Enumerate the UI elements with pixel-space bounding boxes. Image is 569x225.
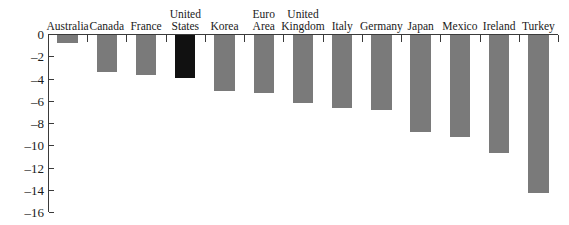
y-axis-tick-label: 0 bbox=[0, 28, 44, 41]
bar bbox=[214, 35, 234, 91]
category-axis-labels: AustraliaCanadaFranceUnited StatesKoreaE… bbox=[48, 0, 558, 34]
x-axis-tick bbox=[401, 35, 402, 42]
bar bbox=[332, 35, 352, 108]
x-axis-tick bbox=[480, 35, 481, 42]
bar bbox=[254, 35, 274, 93]
bar bbox=[489, 35, 509, 153]
y-axis-tick bbox=[49, 145, 54, 146]
bar bbox=[175, 35, 195, 78]
bar bbox=[371, 35, 391, 110]
y-axis-tick-label: –16 bbox=[0, 206, 44, 219]
y-axis-tick-labels: 0–2–4–6–8–10–12–14–16 bbox=[0, 34, 44, 212]
category-label: Turkey bbox=[515, 21, 562, 33]
y-axis-tick bbox=[49, 79, 54, 80]
y-axis-tick bbox=[49, 101, 54, 102]
y-axis-tick-label: –10 bbox=[0, 139, 44, 152]
bar bbox=[410, 35, 430, 132]
y-axis-tick bbox=[49, 56, 54, 57]
plot-area bbox=[48, 34, 558, 212]
y-axis-tick-label: –2 bbox=[0, 50, 44, 63]
bar bbox=[136, 35, 156, 75]
bar bbox=[450, 35, 470, 137]
y-axis-tick bbox=[49, 123, 54, 124]
x-axis-tick bbox=[166, 35, 167, 42]
y-axis-tick-label: –12 bbox=[0, 161, 44, 174]
x-axis-tick bbox=[244, 35, 245, 42]
x-axis-tick bbox=[558, 35, 559, 42]
x-axis-tick bbox=[126, 35, 127, 42]
bar bbox=[97, 35, 117, 72]
y-axis-tick bbox=[49, 212, 54, 213]
bar bbox=[293, 35, 313, 103]
bar-chart: AustraliaCanadaFranceUnited StatesKoreaE… bbox=[0, 0, 569, 225]
y-axis-tick bbox=[49, 190, 54, 191]
x-axis-tick bbox=[205, 35, 206, 42]
x-axis-tick bbox=[283, 35, 284, 42]
y-axis-tick-label: –4 bbox=[0, 72, 44, 85]
bar bbox=[57, 35, 77, 43]
x-axis-tick bbox=[362, 35, 363, 42]
y-axis-tick bbox=[49, 168, 54, 169]
y-axis-tick-label: –14 bbox=[0, 183, 44, 196]
bar bbox=[528, 35, 548, 193]
y-axis-tick-label: –8 bbox=[0, 117, 44, 130]
x-axis-tick bbox=[87, 35, 88, 42]
x-axis-tick bbox=[440, 35, 441, 42]
y-axis-tick-label: –6 bbox=[0, 94, 44, 107]
x-axis-tick bbox=[519, 35, 520, 42]
x-axis-tick bbox=[323, 35, 324, 42]
